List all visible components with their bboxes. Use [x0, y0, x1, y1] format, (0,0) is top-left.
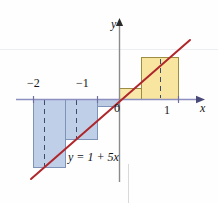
riemann-sum-figure: −2 −1 0 1 y x y = 1 + 5x [0, 0, 218, 203]
figure-canvas [0, 0, 218, 203]
y-axis-label: y [111, 17, 116, 32]
negative-rectangle-bar-1 [34, 100, 66, 168]
equation-label: y = 1 + 5x [68, 150, 119, 165]
x-tick-label-1: 1 [164, 103, 170, 118]
y-axis-arrowhead [116, 18, 123, 26]
x-tick-label-neg-1: −1 [76, 76, 89, 91]
x-axis-label: x [200, 101, 205, 116]
negative-rectangle-bar-2 [66, 100, 98, 140]
x-tick-label-neg-2: −2 [27, 76, 40, 91]
origin-label-zero: 0 [114, 101, 120, 116]
